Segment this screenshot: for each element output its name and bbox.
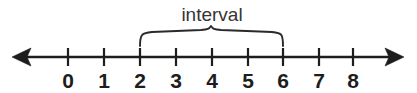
tick-label-4: 4 [206, 69, 218, 92]
tick-label-0: 0 [62, 69, 74, 92]
number-line-figure: 0 1 2 3 4 5 6 7 8 interval [0, 0, 417, 93]
tick-label-5: 5 [242, 69, 254, 92]
interval-label: interval [181, 4, 242, 25]
interval-brace-icon [140, 26, 283, 46]
tick-label-8: 8 [347, 69, 359, 92]
tick-label-6: 6 [277, 69, 289, 92]
tick-label-1: 1 [98, 69, 110, 92]
number-line-canvas: 0 1 2 3 4 5 6 7 8 interval [0, 0, 417, 93]
tick-label-2: 2 [134, 69, 146, 92]
tick-label-7: 7 [313, 69, 325, 92]
tick-label-3: 3 [170, 69, 182, 92]
